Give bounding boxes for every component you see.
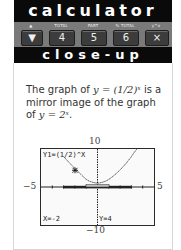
x-min-label: −5 bbox=[23, 181, 36, 191]
key-label-power: y^x bbox=[145, 23, 167, 29]
key-label-arrow: ▲ bbox=[21, 23, 41, 29]
key-5: 5 bbox=[81, 30, 107, 46]
key-6-label: 6 bbox=[123, 32, 129, 43]
graph-plot bbox=[41, 149, 154, 225]
y-max-label: 10 bbox=[89, 136, 100, 146]
key-label-part: PART bbox=[81, 23, 105, 29]
multiply-key: × bbox=[145, 30, 169, 46]
caption-part3: . bbox=[69, 109, 72, 120]
x-readout: X=-2 bbox=[43, 215, 60, 223]
arrow-key: ▼ bbox=[21, 30, 43, 46]
close-up-banner: close-up bbox=[14, 47, 172, 63]
banner-title: calculator bbox=[28, 1, 157, 20]
calculator-banner: calculator bbox=[14, 0, 172, 22]
key-6: 6 bbox=[113, 30, 139, 46]
equation-half-power: y = (1/2) bbox=[93, 84, 137, 95]
calculator-graph-screen: Y1=(1/2)^X X=-2 Y=4 bbox=[40, 148, 155, 226]
y-min-label: −10 bbox=[86, 225, 105, 235]
key-label-percent-total: % TOTAL bbox=[113, 23, 137, 29]
trace-cursor-icon bbox=[72, 167, 78, 173]
multiply-icon: × bbox=[153, 32, 161, 43]
key-label-total: TOTAL bbox=[49, 23, 73, 29]
caption-part1: The graph of bbox=[26, 84, 93, 95]
key-4-label: 4 bbox=[59, 32, 65, 43]
x-max-label: 5 bbox=[157, 181, 163, 191]
caption-text: The graph of y = (1/2)x is a mirror imag… bbox=[26, 84, 166, 122]
equation-two-power: y = 2 bbox=[39, 109, 66, 120]
key-5-label: 5 bbox=[91, 32, 97, 43]
banner-subtitle: close-up bbox=[42, 47, 144, 62]
y-readout: Y=4 bbox=[99, 215, 112, 223]
calculator-key-strip: ▲ ▼ TOTAL 4 PART 5 % TOTAL 6 y^x × bbox=[14, 22, 172, 47]
function-label: Y1=(1/2)^X bbox=[43, 151, 85, 159]
down-arrow-icon: ▼ bbox=[28, 32, 36, 43]
key-4: 4 bbox=[49, 30, 75, 46]
